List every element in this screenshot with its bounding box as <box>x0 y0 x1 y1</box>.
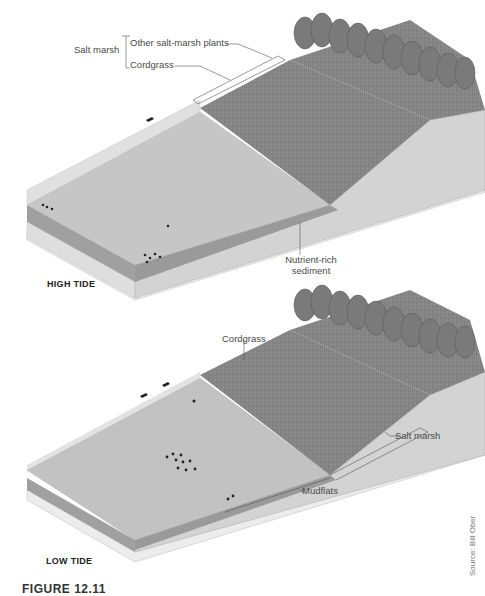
label-salt-marsh-low: Salt marsh <box>395 430 440 441</box>
label-salt-marsh-group: Salt marsh <box>74 44 119 55</box>
low-tide-block <box>27 285 485 562</box>
label-sediment-line1: Nutrient-rich <box>275 254 347 265</box>
label-nutrient-rich-sediment: Nutrient-rich sediment <box>275 254 347 276</box>
panel-title-low-tide: LOW TIDE <box>46 556 92 566</box>
source-credit: Source: Bill Ober <box>468 516 477 576</box>
figure-caption: FIGURE 12.11 <box>22 582 106 596</box>
panel-title-high-tide: HIGH TIDE <box>47 279 95 289</box>
label-other-salt-marsh-plants: Other salt-marsh plants <box>130 37 229 48</box>
label-cordgrass-high: Cordgrass <box>130 59 174 70</box>
label-mudflats: Mudflats <box>302 485 338 496</box>
high-tide-block <box>27 13 485 300</box>
label-sediment-line2: sediment <box>275 265 347 276</box>
label-cordgrass-low: Cordgrass <box>222 333 266 344</box>
